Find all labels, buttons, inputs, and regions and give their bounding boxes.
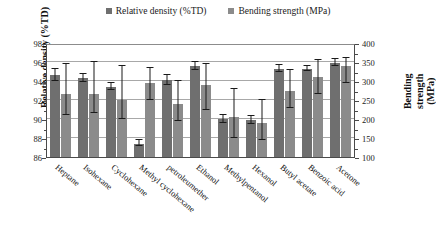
bar-rect [78, 78, 88, 157]
y-tick-mark-left [42, 82, 46, 83]
legend-item-1[interactable]: Relative density (%TD) [106, 6, 207, 16]
bar-strength[interactable] [61, 45, 71, 157]
error-bar-cap [175, 80, 182, 81]
bar-rect [162, 80, 172, 157]
error-bar [233, 89, 234, 138]
bar-density[interactable] [50, 45, 60, 157]
chart-legend: Relative density (%TD)Bending strength (… [0, 6, 436, 16]
bar-density[interactable] [302, 45, 312, 157]
bar-density[interactable] [246, 45, 256, 157]
y-tick-label-left: 86 [22, 154, 42, 163]
bar-density[interactable] [106, 45, 116, 157]
error-bar-cap [119, 118, 126, 119]
bar-strength[interactable] [285, 45, 295, 157]
bar-rect [274, 69, 284, 157]
bar-density[interactable] [78, 45, 88, 157]
bar-strength[interactable] [117, 45, 127, 157]
bar-rect [134, 144, 144, 157]
bar-group [159, 45, 187, 157]
bar-group [326, 45, 354, 157]
y-tick-label-left: 98 [22, 40, 42, 49]
y-tick-mark-right [355, 139, 359, 140]
error-bar-cap [52, 68, 59, 69]
y-minor-tick-right [355, 130, 358, 131]
y-axis-right-title: Bendingstrength(MPa) [402, 43, 436, 139]
bar-density[interactable] [274, 45, 284, 157]
bar-density[interactable] [190, 45, 200, 157]
y-axis-right-title-line: strength [413, 43, 425, 139]
bar-density[interactable] [218, 45, 228, 157]
legend-item-2[interactable]: Bending strength (MPa) [228, 6, 330, 16]
x-axis-category-labels: HeptaneIsohexaneCyclohexaneMethyl cycloh… [46, 160, 355, 230]
error-bar-cap [247, 115, 254, 116]
bar-group [242, 45, 270, 157]
error-bar-cap [147, 67, 154, 68]
bar-density[interactable] [162, 45, 172, 157]
error-bar-cap [258, 139, 265, 140]
y-minor-tick-left [44, 111, 47, 112]
bar-group [270, 45, 298, 157]
y-tick-label-left: 96 [22, 59, 42, 68]
error-bar-cap [303, 70, 310, 71]
bar-strength[interactable] [145, 45, 155, 157]
bar-strength[interactable] [201, 45, 211, 157]
error-bar-cap [108, 89, 115, 90]
error-bar [150, 68, 151, 100]
bar-strength[interactable] [89, 45, 99, 157]
bar-group [187, 45, 215, 157]
y-tick-label-right: 300 [362, 78, 375, 87]
error-bar [178, 81, 179, 121]
bar-rect [190, 66, 200, 157]
error-bar [261, 100, 262, 140]
y-tick-mark-right [355, 120, 359, 121]
x-tick-cell: Butyl acetate [271, 160, 299, 230]
y-tick-label-right: 100 [362, 154, 375, 163]
bar-group [103, 45, 131, 157]
bar-group [131, 45, 159, 157]
y-tick-mark-left [42, 120, 46, 121]
error-bar-cap [258, 99, 265, 100]
y-tick-mark-left [42, 158, 46, 159]
y-tick-label-left: 94 [22, 78, 42, 87]
bar-strength[interactable] [341, 45, 351, 157]
bending-strength-density-chart: Relative density (%TD)Bending strength (… [0, 0, 436, 232]
y-tick-mark-right [355, 44, 359, 45]
error-bar-cap [147, 99, 154, 100]
error-bar-cap [314, 59, 321, 60]
bar-group [47, 45, 75, 157]
error-bar [122, 66, 123, 119]
error-bar-cap [119, 65, 126, 66]
error-bar [66, 64, 67, 115]
error-bar-cap [314, 93, 321, 94]
bar-group [75, 45, 103, 157]
y-tick-label-right: 250 [362, 97, 375, 106]
error-bar-cap [164, 84, 171, 85]
bar-groups [47, 45, 354, 157]
error-bar-cap [202, 109, 209, 110]
x-tick-cell: Heptane [46, 160, 74, 230]
error-bar-cap [303, 65, 310, 66]
y-minor-tick-right [355, 54, 358, 55]
y-minor-tick-left [44, 73, 47, 74]
error-bar-cap [63, 63, 70, 64]
bar-rect [106, 87, 116, 157]
bar-strength[interactable] [313, 45, 323, 157]
error-bar-cap [136, 145, 143, 146]
y-tick-label-right: 350 [362, 59, 375, 68]
error-bar-cap [63, 114, 70, 115]
y-tick-mark-right [355, 63, 359, 64]
bar-strength[interactable] [229, 45, 239, 157]
x-tick-cell: Methyl cyclohexane [130, 160, 158, 230]
error-bar-cap [342, 82, 349, 83]
y-axis-right-title-line: Bending [402, 43, 414, 139]
y-tick-label-right: 200 [362, 116, 375, 125]
error-bar [289, 70, 290, 108]
error-bar [317, 60, 318, 94]
error-bar [94, 62, 95, 113]
plot-area [46, 44, 355, 158]
bar-strength[interactable] [173, 45, 183, 157]
bar-strength[interactable] [257, 45, 267, 157]
error-bar-cap [164, 74, 171, 75]
bar-density[interactable] [134, 45, 144, 157]
bar-density[interactable] [330, 45, 340, 157]
